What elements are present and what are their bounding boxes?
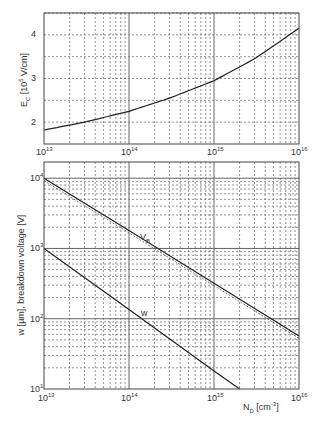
ec-xtick-1e16: 1016 — [291, 146, 308, 157]
ec-xtick-1e14: 1014 — [121, 146, 138, 157]
ec-ytick-3: 3 — [31, 73, 36, 83]
ec-chart: 4 3 2 1013 1014 1015 1016 EC [105 V/cm] — [18, 13, 308, 157]
vb-ytick-1e3: 103 — [30, 242, 44, 253]
ec-xtick-1e15: 1015 — [207, 146, 224, 157]
ec-ytick-4: 4 — [31, 29, 36, 39]
ec-ylabel: EC [105 V/cm] — [18, 53, 31, 107]
vb-xtick-1e16: 1016 — [291, 392, 308, 403]
vb-curve — [44, 178, 299, 336]
vb-ytick-1e4: 104 — [30, 172, 44, 183]
ec-ytick-2: 2 — [31, 117, 36, 127]
vb-xtick-1e14: 1014 — [121, 392, 138, 403]
ec-grid — [44, 13, 299, 144]
vb-curve-label: VB — [140, 232, 150, 244]
ec-xtick-1e13: 1013 — [36, 146, 53, 157]
w-curve-label: w — [140, 308, 148, 318]
ec-curve — [44, 28, 299, 130]
vb-w-ylabel: w [µm], breakdown voltage [V] — [16, 215, 26, 337]
vb-xtick-1e13: 1013 — [38, 392, 55, 403]
vb-w-chart: 104 103 102 101 1013 1014 1015 1016 ND [… — [16, 162, 308, 414]
vb-xtick-1e15: 1015 — [207, 392, 224, 403]
nd-xlabel: ND [cm-3] — [243, 401, 279, 414]
vb-ytick-1e2: 102 — [30, 313, 44, 324]
figure: 4 3 2 1013 1014 1015 1016 EC [105 V/cm] … — [0, 0, 323, 429]
